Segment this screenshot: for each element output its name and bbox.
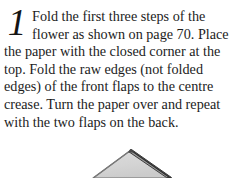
text-line: top. Fold the raw edges (not folded	[4, 61, 245, 79]
book-page-fragment: 1 Fold the first three steps of the flow…	[0, 0, 247, 178]
text-line: flower as shown on page 70. Place	[4, 26, 245, 44]
instruction-text: Fold the first three steps of the flower…	[4, 8, 245, 131]
text-line: with the two flaps on the back.	[4, 114, 245, 132]
text-line: Fold the first three steps of the	[4, 8, 245, 26]
text-line: edges) of the front flaps to the centre	[4, 78, 245, 96]
text-line: the paper with the closed corner at the	[4, 43, 245, 61]
origami-diagram	[0, 130, 247, 178]
text-line: crease. Turn the paper over and repeat	[4, 96, 245, 114]
